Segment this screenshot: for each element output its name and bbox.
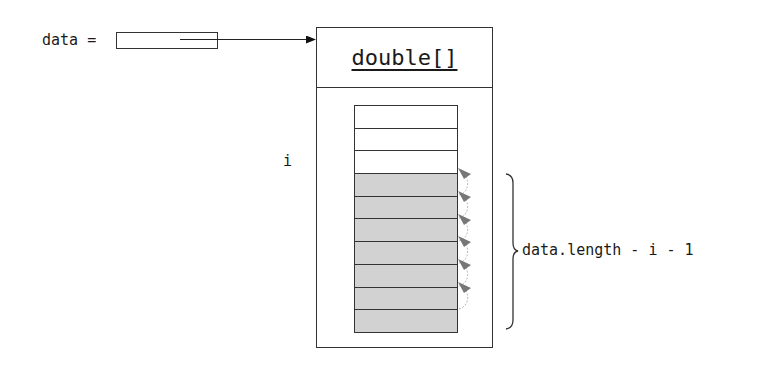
shift-arrows-icon [458, 168, 471, 309]
shift-arrow-icon [458, 168, 471, 195]
shift-arrow-icon [458, 236, 471, 263]
curly-brace-icon [506, 174, 518, 329]
diagram-overlay [0, 0, 761, 369]
remaining-length-label: data.length - i - 1 [522, 241, 694, 259]
